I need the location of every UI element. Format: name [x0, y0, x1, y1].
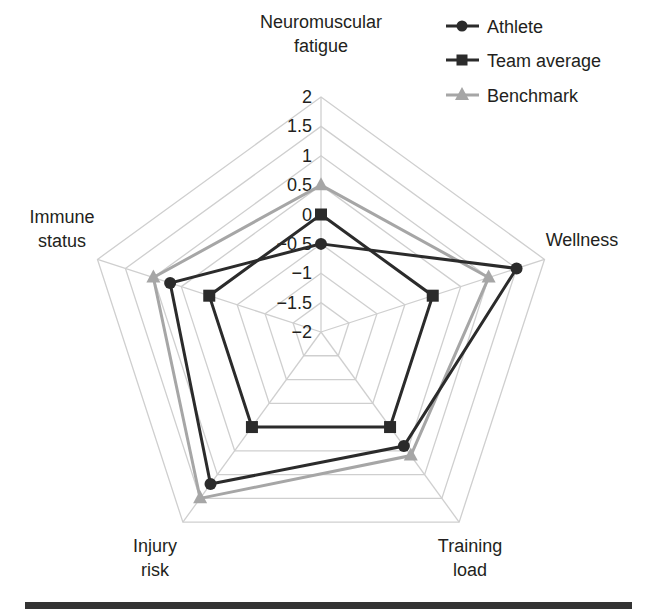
- series-athlete: [164, 238, 522, 490]
- axis-label-wellness: Wellness: [546, 230, 619, 250]
- axis-label-neuromuscular-fatigue: Neuromuscularfatigue: [260, 12, 382, 56]
- circle-marker-icon: [164, 277, 176, 289]
- axis-label-training-load: Trainingload: [438, 536, 502, 580]
- square-marker-icon: [427, 290, 439, 302]
- circle-marker-icon: [204, 478, 216, 490]
- series-line: [170, 244, 516, 484]
- triangle-marker-icon: [314, 177, 328, 190]
- legend-item-team-average: Team average: [446, 51, 601, 71]
- legend-label-athlete: Athlete: [487, 17, 543, 37]
- radar-chart: 21.510.50−0.5−1−1.5−2 Neuromuscularfatig…: [0, 0, 648, 612]
- tick-label: 1: [302, 146, 312, 166]
- tick-label: −2: [291, 322, 312, 342]
- axis-label-immune-status: Immunestatus: [29, 207, 94, 251]
- tick-label: 1.5: [287, 116, 312, 136]
- square-marker-icon: [457, 55, 468, 66]
- square-marker-icon: [246, 421, 258, 433]
- square-marker-icon: [384, 421, 396, 433]
- legend-label-benchmark: Benchmark: [487, 86, 579, 106]
- legend: Athlete Team average Benchmark: [446, 17, 601, 106]
- tick-label: 2: [302, 87, 312, 107]
- legend-label-team-average: Team average: [487, 51, 601, 71]
- circle-marker-icon: [511, 262, 523, 274]
- legend-item-benchmark: Benchmark: [446, 86, 579, 106]
- circle-marker-icon: [315, 238, 327, 250]
- bottom-rule: [25, 602, 632, 609]
- radar-grid: [98, 97, 545, 522]
- square-marker-icon: [315, 209, 327, 221]
- tick-label: −1: [291, 263, 312, 283]
- tick-label: −1.5: [276, 293, 312, 313]
- circle-marker-icon: [398, 440, 410, 452]
- circle-marker-icon: [457, 21, 468, 32]
- axis-label-injury-risk: Injuryrisk: [133, 536, 177, 580]
- legend-item-athlete: Athlete: [446, 17, 543, 37]
- square-marker-icon: [203, 290, 215, 302]
- data-series: [146, 177, 522, 503]
